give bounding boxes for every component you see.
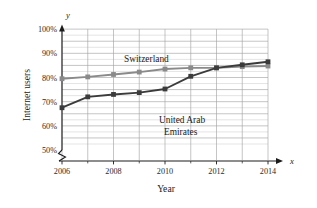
y-tick-label-60: 60% <box>42 122 57 131</box>
uae-point-2008 <box>111 92 116 97</box>
internet-users-line-chart: 100% 90% 80% 70% 60% 50% 2006 2008 2010 … <box>0 0 317 208</box>
x-tick-label-2012: 2012 <box>208 167 224 176</box>
uae-point-2012 <box>214 65 219 70</box>
y-tick-label-50: 50% <box>42 146 57 155</box>
x-tick-label-2014: 2014 <box>260 167 276 176</box>
chart-gridlines <box>62 29 268 160</box>
x-tick-label-2008: 2008 <box>105 167 121 176</box>
uae-point-2013 <box>240 62 245 67</box>
x-axis-title: Year <box>157 183 175 194</box>
uae-label-line2: Emirates <box>164 127 198 137</box>
switzerland-point-2008 <box>111 72 116 77</box>
chart-canvas: 100% 90% 80% 70% 60% 50% 2006 2008 2010 … <box>0 0 317 208</box>
uae-point-2011 <box>188 74 193 79</box>
uae-point-2006 <box>60 105 65 110</box>
x-tick-labels: 2006 2008 2010 2012 2014 <box>54 167 276 176</box>
x-axis-variable-label: x <box>289 156 294 166</box>
uae-label-line1: United Arab <box>159 115 205 125</box>
vertical-gridlines <box>62 29 268 160</box>
uae-point-2009 <box>137 90 142 95</box>
switzerland-point-2010 <box>163 67 168 72</box>
switzerland-point-2007 <box>85 75 90 80</box>
switzerland-point-2011 <box>188 65 193 70</box>
x-tick-label-2006: 2006 <box>54 167 70 176</box>
switzerland-point-2009 <box>137 70 142 75</box>
x-axis-arrowhead <box>276 158 283 164</box>
y-tick-labels: 100% 90% 80% 70% 60% 50% <box>38 25 57 155</box>
uae-point-2014 <box>266 59 271 64</box>
uae-point-2010 <box>163 87 168 92</box>
switzerland-point-2014 <box>266 64 271 69</box>
y-axis-variable-label: y <box>65 10 70 20</box>
y-axis-arrowhead <box>59 25 65 32</box>
x-tick-label-2010: 2010 <box>157 167 173 176</box>
uae-point-2007 <box>85 94 90 99</box>
switzerland-point-2006 <box>60 76 65 81</box>
y-tick-label-80: 80% <box>42 74 57 83</box>
chart-axes <box>59 25 284 165</box>
y-axis-title: Internet users <box>21 69 32 121</box>
switzerland-label: Switzerland <box>124 54 169 64</box>
y-tick-label-100: 100% <box>38 25 57 34</box>
y-tick-label-90: 90% <box>42 49 57 58</box>
y-tick-label-70: 70% <box>42 98 57 107</box>
